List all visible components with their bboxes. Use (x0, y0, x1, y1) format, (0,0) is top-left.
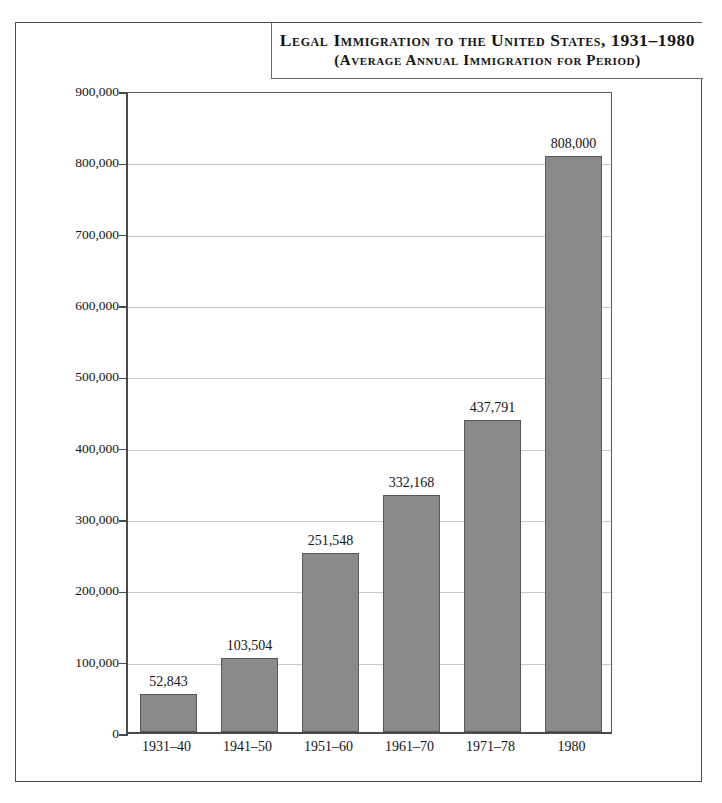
x-axis-label: 1971–78 (450, 739, 531, 755)
y-axis-tick (119, 92, 128, 94)
y-axis-tick (119, 449, 128, 451)
y-axis-label: 500,000 (75, 370, 119, 384)
bar-group: 251,548 (290, 93, 371, 732)
bar[interactable] (464, 420, 521, 732)
bar-value-label: 437,791 (470, 400, 516, 415)
bar-group: 808,000 (533, 93, 614, 732)
bar-value-label: 103,504 (227, 638, 273, 653)
y-axis-tick (119, 592, 128, 594)
chart-title-box: Legal Immigration to the United States, … (271, 23, 703, 79)
bar-value-label: 808,000 (551, 136, 597, 151)
y-axis-label: 900,000 (75, 85, 119, 99)
chart-title-primary: Legal Immigration to the United States, … (278, 30, 697, 51)
bar[interactable] (545, 156, 602, 732)
y-axis-tick (119, 378, 128, 380)
bar-value-label: 251,548 (308, 533, 354, 548)
y-axis-label: 0 (112, 727, 119, 741)
bar-group: 437,791 (452, 93, 533, 732)
y-axis-label: 100,000 (75, 656, 119, 670)
y-axis-label: 600,000 (75, 299, 119, 313)
y-axis-label: 400,000 (75, 442, 119, 456)
plot-area: 52,843103,504251,548332,168437,791808,00… (126, 92, 612, 734)
x-axis-label: 1961–70 (369, 739, 450, 755)
bar-group: 332,168 (371, 93, 452, 732)
y-axis-tick (119, 520, 128, 522)
chart-title-subtitle: (Average Annual Immigration for Period) (278, 51, 697, 70)
bar-value-label: 52,843 (149, 674, 188, 689)
bar-value-label: 332,168 (389, 475, 435, 490)
chart-page-frame: Legal Immigration to the United States, … (15, 22, 702, 782)
x-axis: 1931–401941–501951–601961–701971–781980 (126, 739, 612, 767)
y-axis-label: 300,000 (75, 513, 119, 527)
x-axis-label: 1980 (531, 739, 612, 755)
bar-group: 103,504 (209, 93, 290, 732)
y-axis-tick (119, 663, 128, 665)
bar[interactable] (383, 495, 440, 732)
y-axis-tick (119, 235, 128, 237)
y-axis-label: 800,000 (75, 156, 119, 170)
x-axis-label: 1931–40 (126, 739, 207, 755)
bar[interactable] (140, 694, 197, 732)
y-axis-tick (119, 164, 128, 166)
y-axis-label: 700,000 (75, 228, 119, 242)
y-axis-tick (119, 734, 128, 736)
y-axis-tick (119, 306, 128, 308)
bar[interactable] (221, 658, 278, 732)
bar-group: 52,843 (128, 93, 209, 732)
x-axis-label: 1941–50 (207, 739, 288, 755)
y-axis: 0100,000200,000300,000400,000500,000600,… (16, 92, 119, 734)
bar[interactable] (302, 553, 359, 732)
y-axis-label: 200,000 (75, 584, 119, 598)
x-axis-label: 1951–60 (288, 739, 369, 755)
